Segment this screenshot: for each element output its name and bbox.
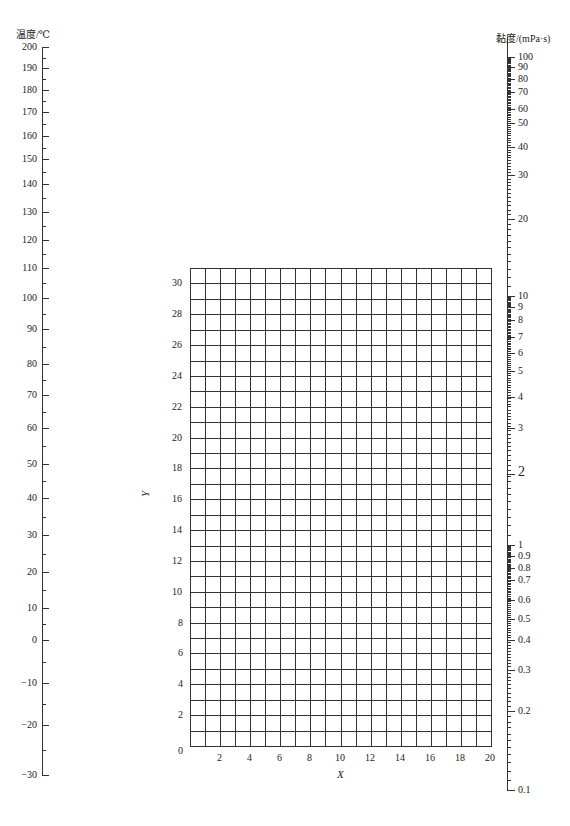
minor-tick xyxy=(42,198,46,199)
minor-tick xyxy=(507,316,511,317)
minor-tick xyxy=(507,355,511,356)
y-axis-label: Y xyxy=(139,491,151,497)
grid-line-horizontal xyxy=(190,330,492,331)
minor-tick xyxy=(507,100,511,101)
minor-tick xyxy=(507,344,511,345)
grid-line-horizontal xyxy=(190,407,492,408)
y-tick-label: 26 xyxy=(172,340,182,350)
minor-tick xyxy=(507,78,511,79)
minor-tick xyxy=(507,307,511,308)
minor-tick xyxy=(507,84,511,85)
minor-tick xyxy=(507,419,511,420)
minor-tick xyxy=(507,423,511,424)
minor-tick xyxy=(507,346,511,347)
y-tick-label: 4 xyxy=(178,679,183,689)
left-axis-title: 温度/℃ xyxy=(16,26,50,41)
major-tick xyxy=(42,268,49,269)
minor-tick xyxy=(507,326,511,327)
minor-tick xyxy=(507,304,511,305)
y-tick-label: 0 xyxy=(178,746,183,756)
minor-tick xyxy=(507,219,511,220)
x-tick-label: 14 xyxy=(395,753,405,763)
minor-tick xyxy=(507,129,511,130)
minor-tick xyxy=(507,555,511,556)
minor-tick xyxy=(507,321,511,322)
minor-tick xyxy=(507,434,511,435)
grid-line-vertical xyxy=(371,268,372,746)
minor-tick xyxy=(507,426,511,427)
minor-tick xyxy=(507,60,511,61)
grid-line-horizontal xyxy=(190,731,492,732)
temperature-axis-line xyxy=(42,47,43,775)
minor-tick xyxy=(507,553,511,554)
grid-line-horizontal xyxy=(190,561,492,562)
viscosity-tick-label: 40 xyxy=(518,142,528,152)
minor-tick xyxy=(507,87,511,88)
minor-tick xyxy=(507,577,511,578)
minor-tick xyxy=(507,657,511,658)
minor-tick xyxy=(42,283,46,284)
y-tick-label: 22 xyxy=(172,402,182,412)
minor-tick xyxy=(507,549,511,550)
x-tick-label: 12 xyxy=(365,753,375,763)
major-tick xyxy=(42,329,49,330)
viscosity-tick-label: 20 xyxy=(518,214,528,224)
minor-tick xyxy=(507,562,511,563)
grid-line-horizontal xyxy=(190,546,492,547)
minor-tick xyxy=(507,594,511,595)
viscosity-tick-label: 0.5 xyxy=(518,614,531,624)
x-tick-label: 6 xyxy=(277,753,282,763)
minor-tick xyxy=(507,380,511,381)
minor-tick xyxy=(507,517,511,518)
viscosity-tick-label: 4 xyxy=(518,392,523,402)
grid-line-vertical xyxy=(386,268,387,746)
minor-tick xyxy=(507,501,511,502)
minor-tick xyxy=(507,554,511,555)
minor-tick xyxy=(507,734,511,735)
viscosity-tick-label: 6 xyxy=(518,348,523,358)
minor-tick xyxy=(507,470,511,471)
minor-tick xyxy=(507,564,511,565)
minor-tick xyxy=(507,241,511,242)
minor-tick xyxy=(507,297,511,298)
minor-tick xyxy=(507,269,511,270)
grid-line-vertical xyxy=(280,268,281,746)
minor-tick xyxy=(507,160,511,161)
minor-tick xyxy=(507,648,511,649)
grid-line-horizontal xyxy=(190,700,492,701)
viscosity-tick-label: 0.9 xyxy=(518,551,531,561)
temperature-tick-label: 60 xyxy=(7,423,37,433)
minor-tick xyxy=(507,110,511,111)
minor-tick xyxy=(507,112,511,113)
minor-tick xyxy=(507,310,511,311)
minor-tick xyxy=(507,303,511,304)
viscosity-tick-label: 0.4 xyxy=(518,635,531,645)
viscosity-tick-label: 90 xyxy=(518,62,528,72)
minor-tick xyxy=(507,706,511,707)
minor-tick xyxy=(507,341,511,342)
minor-tick xyxy=(507,481,511,482)
minor-tick xyxy=(42,704,46,705)
minor-tick xyxy=(507,68,511,69)
minor-tick xyxy=(42,412,46,413)
minor-tick xyxy=(507,642,511,643)
minor-tick xyxy=(507,73,511,74)
minor-tick xyxy=(507,58,511,59)
minor-tick xyxy=(507,172,511,173)
minor-tick xyxy=(507,640,511,641)
minor-tick xyxy=(507,367,511,368)
minor-tick xyxy=(507,571,511,572)
temperature-tick-label: 0 xyxy=(7,635,37,645)
minor-tick xyxy=(507,619,511,620)
grid-line-horizontal xyxy=(190,438,492,439)
grid-line-vertical xyxy=(446,268,447,746)
minor-tick xyxy=(507,363,511,364)
temperature-tick-label: 130 xyxy=(7,207,37,217)
grid-line-vertical xyxy=(220,268,221,746)
minor-tick xyxy=(507,63,511,64)
minor-tick xyxy=(507,605,511,606)
minor-tick xyxy=(507,557,511,558)
minor-tick xyxy=(507,214,511,215)
major-tick xyxy=(42,364,49,365)
minor-tick xyxy=(507,66,511,67)
